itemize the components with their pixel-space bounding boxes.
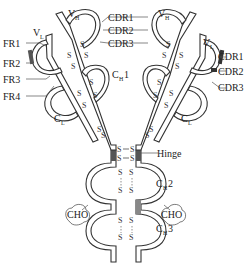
- svg-text:S: S: [153, 91, 157, 100]
- antibody-structure-figure: S S S S S S S S S S S S: [0, 0, 252, 267]
- cho-right-label: CHO: [161, 209, 182, 220]
- svg-text:C: C: [54, 113, 61, 124]
- svg-text:S: S: [129, 216, 133, 225]
- left-vl-label: V L: [33, 27, 44, 40]
- svg-text:S: S: [169, 89, 173, 98]
- right-cdr1-label: CDR1: [218, 51, 244, 62]
- svg-text:S: S: [89, 78, 93, 87]
- svg-text:S: S: [166, 40, 170, 49]
- cho-right: CHO: [161, 204, 186, 225]
- svg-text:S: S: [130, 154, 134, 163]
- svg-text:S: S: [118, 216, 122, 225]
- svg-text:S: S: [162, 51, 166, 60]
- svg-text:S: S: [157, 78, 161, 87]
- svg-text:S: S: [82, 101, 86, 110]
- svg-text:S: S: [71, 62, 75, 71]
- antibody-diagram: S S S S S S S S S S S S: [0, 0, 252, 267]
- hinge-disulfides: S S S S: [117, 145, 134, 163]
- svg-text:S: S: [93, 91, 97, 100]
- cho-left-label: CHO: [67, 209, 88, 220]
- svg-text:C: C: [112, 69, 119, 80]
- svg-text:S: S: [149, 125, 153, 134]
- svg-text:S: S: [118, 186, 122, 195]
- svg-text:S: S: [164, 101, 168, 110]
- svg-text:S: S: [77, 89, 81, 98]
- center-cdr3-label: CDR3: [108, 38, 134, 49]
- svg-text:H: H: [75, 15, 80, 21]
- svg-text:C: C: [156, 178, 163, 189]
- fr4-label: FR4: [3, 91, 20, 102]
- svg-text:S: S: [101, 131, 105, 140]
- svg-text:L: L: [188, 120, 192, 126]
- svg-text:2: 2: [168, 178, 173, 189]
- right-cdr2-label: CDR2: [218, 66, 244, 77]
- fr2-label: FR2: [3, 58, 20, 69]
- svg-text:S: S: [67, 51, 71, 60]
- svg-text:S: S: [179, 51, 183, 60]
- svg-text:S: S: [84, 51, 88, 60]
- svg-text:1: 1: [124, 69, 129, 80]
- svg-text:S: S: [129, 233, 133, 242]
- svg-text:S: S: [118, 168, 122, 177]
- svg-text:S: S: [129, 186, 133, 195]
- cho-left: CHO: [66, 204, 90, 225]
- svg-text:S: S: [129, 168, 133, 177]
- center-cdr1-label: CDR1: [108, 12, 134, 23]
- svg-text:S: S: [117, 154, 121, 163]
- left-fab: S S S S S S S S S S: [28, 10, 116, 150]
- svg-text:S: S: [118, 233, 122, 242]
- svg-text:S: S: [145, 131, 149, 140]
- fr3-label: FR3: [3, 74, 20, 85]
- svg-text:L: L: [40, 34, 44, 40]
- svg-text:C: C: [156, 223, 163, 234]
- fr1-label: FR1: [3, 38, 20, 49]
- svg-text:L: L: [61, 120, 65, 126]
- fc-region: S S S S S S S S S S S S: [86, 145, 166, 262]
- svg-text:3: 3: [168, 223, 173, 234]
- svg-text:L: L: [210, 44, 214, 50]
- svg-text:C: C: [181, 113, 188, 124]
- hinge-label: Hinge: [157, 148, 182, 159]
- svg-text:S: S: [175, 62, 179, 71]
- svg-text:H: H: [165, 15, 170, 21]
- svg-text:S: S: [130, 145, 134, 154]
- right-cdr3-label: CDR3: [218, 82, 244, 93]
- svg-text:S: S: [117, 145, 121, 154]
- stem-disulfides: S S S S S S S S: [118, 168, 133, 242]
- ch1-label: C H 1: [112, 69, 129, 82]
- center-cdr2-label: CDR2: [108, 25, 134, 36]
- svg-text:S: S: [80, 40, 84, 49]
